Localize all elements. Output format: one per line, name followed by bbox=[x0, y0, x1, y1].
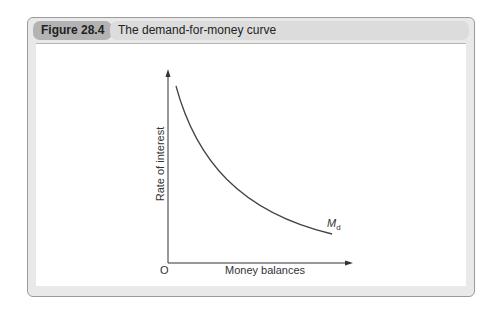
md-label: Md bbox=[327, 217, 341, 232]
y-axis-label: Rate of interest bbox=[154, 114, 166, 214]
md-label-main: M bbox=[327, 217, 336, 229]
md-label-sub: d bbox=[336, 223, 340, 232]
md-curve bbox=[176, 86, 332, 234]
y-axis-arrow-icon bbox=[166, 69, 171, 77]
x-axis-label: Money balances bbox=[225, 264, 305, 276]
x-axis-arrow-icon bbox=[345, 261, 353, 266]
origin-label: O bbox=[160, 264, 169, 276]
